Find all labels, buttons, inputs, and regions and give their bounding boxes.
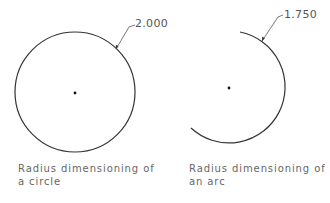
circle-center-point xyxy=(74,92,77,95)
circle-caption-line2: a circle xyxy=(18,175,155,188)
circle-caption-line1: Radius dimensioning of xyxy=(18,162,155,175)
circle-leader-line xyxy=(116,25,135,49)
arc-shape xyxy=(191,32,285,143)
arc-dimension-label: 1.750 xyxy=(284,9,317,21)
arc-caption-line1: Radius dimensioning of xyxy=(189,162,326,175)
arc-center-point xyxy=(228,87,231,90)
arc-leader-line xyxy=(262,15,283,41)
arc-figure xyxy=(191,15,285,143)
arc-caption-line2: an arc xyxy=(189,175,326,188)
circle-figure xyxy=(15,25,135,152)
circle-dimension-label: 2.000 xyxy=(135,18,168,30)
arc-caption: Radius dimensioning of an arc xyxy=(189,162,326,188)
circle-caption: Radius dimensioning of a circle xyxy=(18,162,155,188)
